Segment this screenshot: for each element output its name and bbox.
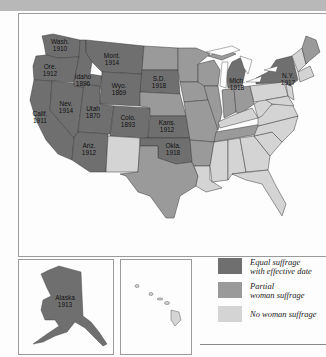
lake-michigan xyxy=(220,62,228,88)
legend-item-equal: Equal suffrage with effective date xyxy=(218,258,326,276)
label-ariz: Ariz. xyxy=(83,142,96,149)
hawaii-map xyxy=(121,260,193,356)
label-idaho-year: 1896 xyxy=(76,80,91,87)
label-utah: Utah xyxy=(86,105,100,112)
label-wash-year: 1910 xyxy=(53,45,68,52)
legend-item-partial: Partial woman suffrage xyxy=(218,282,326,300)
label-wash: Wash. xyxy=(51,38,69,45)
lake-erie xyxy=(246,76,262,82)
swatch-partial xyxy=(218,282,242,298)
hawaii-inset xyxy=(120,259,192,355)
label-alaska-year: 1913 xyxy=(58,301,73,308)
state-florida xyxy=(232,170,286,216)
label-ny-year: 1917 xyxy=(281,79,296,86)
island-maui xyxy=(165,302,170,305)
bottom-rule xyxy=(200,344,326,345)
state-indiana xyxy=(222,88,236,118)
swatch-equal xyxy=(218,258,242,274)
state-north-dakota xyxy=(142,46,178,70)
label-ore-year: 1912 xyxy=(43,70,58,77)
alaska-inset: Alaska 1913 xyxy=(18,259,114,355)
label-okla: Okla. xyxy=(165,142,180,149)
label-alaska: Alaska xyxy=(55,294,75,301)
legend-none-line1: No woman suffrage xyxy=(250,310,317,319)
label-idaho: Idaho xyxy=(75,73,92,80)
lake-ontario xyxy=(264,66,278,72)
label-wyo-year: 1869 xyxy=(112,89,127,96)
island-molokai xyxy=(157,298,163,300)
label-ny: N.Y. xyxy=(282,72,294,79)
island-oahu xyxy=(149,293,153,296)
island-hawaii xyxy=(171,310,181,326)
label-nev: Nev. xyxy=(60,100,73,107)
label-sd: S.D. xyxy=(153,75,166,82)
label-okla-year: 1918 xyxy=(166,149,181,156)
label-calif: Calif. xyxy=(33,110,48,117)
label-utah-year: 1870 xyxy=(86,112,101,119)
swatch-none xyxy=(218,306,242,322)
legend-item-none: No woman suffrage xyxy=(218,306,326,322)
label-mont-year: 1914 xyxy=(105,59,120,66)
state-new-mexico xyxy=(106,136,140,172)
label-colo-year: 1893 xyxy=(121,121,136,128)
label-kans-year: 1912 xyxy=(160,126,175,133)
label-ore: Ore. xyxy=(44,63,57,70)
label-mont: Mont. xyxy=(104,52,120,59)
label-kans: Kans. xyxy=(159,119,176,126)
label-mich: Mich. xyxy=(229,77,245,84)
label-colo: Colo. xyxy=(120,114,135,121)
state-maine xyxy=(302,36,320,64)
state-wisconsin xyxy=(198,60,220,86)
island-kauai xyxy=(135,285,139,288)
label-calif-year: 1911 xyxy=(33,117,47,124)
label-mich-year: 1918 xyxy=(230,84,245,91)
legend-partial-line2: woman suffrage xyxy=(250,291,305,300)
map-legend: Equal suffrage with effective date Parti… xyxy=(218,258,326,328)
legend-equal-line2: with effective date xyxy=(250,267,312,276)
label-nev-year: 1914 xyxy=(59,107,74,114)
label-sd-year: 1918 xyxy=(152,82,167,89)
alaska-map: Alaska 1913 xyxy=(19,260,115,356)
label-ariz-year: 1912 xyxy=(82,149,97,156)
